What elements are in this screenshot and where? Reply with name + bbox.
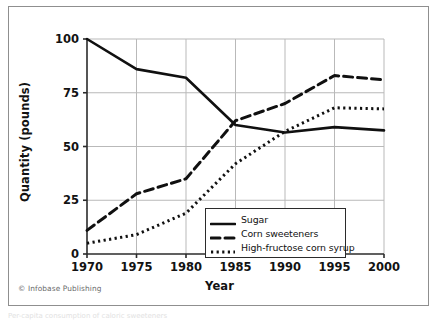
x-tick-label: 1970	[64, 260, 110, 274]
legend-item-2: High-fructose corn syrup	[210, 240, 341, 254]
y-tick-label: 0	[39, 247, 79, 261]
x-tick-label: 2000	[361, 260, 407, 274]
legend-label: Sugar	[241, 214, 268, 225]
x-tick-label: 1990	[262, 260, 308, 274]
legend-swatch-solid-icon	[210, 214, 236, 224]
legend-label: High-fructose corn syrup	[241, 242, 355, 253]
chart-legend: SugarCorn sweetenersHigh-fructose corn s…	[205, 208, 346, 258]
x-tick-label: 1985	[213, 260, 259, 274]
legend-swatch-dashed-icon	[210, 228, 236, 238]
y-tick-label: 100	[39, 32, 79, 46]
y-tick-label: 25	[39, 193, 79, 207]
legend-swatch-dotted-icon	[210, 242, 236, 252]
y-axis-title: Quantity (pounds)	[18, 77, 32, 207]
legend-item-0: Sugar	[210, 212, 341, 226]
legend-item-1: Corn sweeteners	[210, 226, 341, 240]
y-tick-label: 50	[39, 140, 79, 154]
legend-label: Corn sweeteners	[241, 228, 318, 239]
x-tick-label: 1995	[312, 260, 358, 274]
y-tick-label: 75	[39, 86, 79, 100]
x-tick-label: 1975	[114, 260, 160, 274]
chart-figure: Quantity (pounds) Year 0255075100 197019…	[8, 6, 429, 306]
x-tick-label: 1980	[163, 260, 209, 274]
figure-caption: Per-capita consumption of caloric sweete…	[8, 312, 308, 322]
copyright-notice: © Infobase Publishing	[18, 284, 102, 293]
